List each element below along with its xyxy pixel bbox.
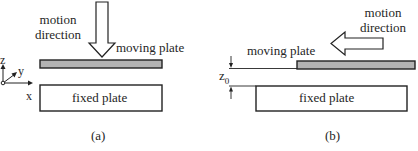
caption-b: (b) <box>325 129 340 143</box>
gap-arrows-icon <box>229 56 233 99</box>
moving-plate-label-b: moving plate <box>247 44 315 58</box>
motion-direction-label-a: motion direction <box>33 13 83 42</box>
motion-label-line2: direction <box>33 28 83 42</box>
motion-arrow-left-icon <box>331 32 383 55</box>
moving-plate-b <box>297 61 415 69</box>
caption-a: (a) <box>91 129 105 143</box>
axis-label-z: z <box>0 53 5 67</box>
gap-label-z0: z0 <box>219 69 229 88</box>
motion-label-line1: motion <box>358 6 408 20</box>
motion-direction-label-b: motion direction <box>358 6 408 35</box>
motion-label-line2: direction <box>358 21 408 35</box>
motion-label-line1: motion <box>33 13 83 27</box>
gap-subscript: 0 <box>225 76 230 86</box>
fixed-plate-label-b: fixed plate <box>299 91 354 105</box>
axis-label-x: x <box>26 89 32 103</box>
moving-plate-a <box>40 60 162 68</box>
fixed-plate-label-a: fixed plate <box>72 91 127 105</box>
motion-arrow-down-icon <box>89 2 115 57</box>
coordinate-axes-icon <box>1 64 34 86</box>
axis-label-y: y <box>18 64 24 78</box>
moving-plate-label-a: moving plate <box>116 41 184 55</box>
